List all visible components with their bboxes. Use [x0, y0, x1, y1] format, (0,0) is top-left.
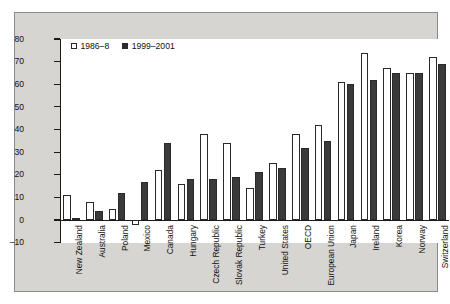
x-axis-label: Australia — [98, 225, 106, 258]
y-axis-tick-label: 70 — [14, 57, 24, 66]
y-axis-tick — [54, 174, 60, 175]
y-axis-tick — [54, 106, 60, 107]
y-axis-tick-label: –10 — [10, 238, 24, 247]
legend-entry: 1986–8 — [71, 41, 109, 51]
legend-entry: 1999–2001 — [122, 41, 175, 51]
x-axis-label: Slovak Republic — [235, 225, 243, 285]
chart-figure: –1001020304050607080 New ZealandAustrali… — [0, 0, 450, 304]
y-axis-tick-label: 30 — [14, 148, 24, 157]
y-axis-tick-label: 20 — [14, 170, 24, 179]
y-axis-tick — [54, 152, 60, 153]
x-axis-label: Mexico — [143, 225, 151, 252]
bar — [383, 68, 391, 220]
y-axis-tick — [54, 197, 60, 198]
x-axis-label: Turkey — [258, 225, 266, 250]
bar — [86, 202, 94, 220]
y-axis-tick-label: 50 — [14, 103, 24, 112]
x-axis-label: OECD — [304, 225, 312, 249]
bar — [155, 170, 163, 220]
x-axis-label: European Union — [327, 225, 335, 286]
x-axis-label: Czech Republic — [212, 225, 220, 284]
bar — [255, 172, 263, 220]
y-axis-tick-label: 80 — [14, 35, 24, 44]
bar — [370, 80, 378, 220]
y-axis-tick-label: 10 — [14, 193, 24, 202]
x-axis-label: Switzerland — [441, 225, 449, 268]
bar — [187, 179, 195, 220]
x-axis-label: Norway — [418, 225, 426, 253]
y-axis-tick-label: 60 — [14, 80, 24, 89]
bar — [118, 193, 126, 220]
x-axis-label: Canada — [166, 225, 174, 254]
y-axis-tick-label: 0 — [19, 216, 24, 225]
bar — [338, 82, 346, 220]
y-axis-tick — [54, 61, 60, 62]
x-axis-label: Korea — [395, 225, 403, 247]
y-axis-tick — [54, 219, 60, 220]
bar — [324, 141, 332, 220]
chart-plate: –1001020304050607080 New ZealandAustrali… — [14, 12, 438, 292]
bar — [361, 53, 369, 220]
bar — [392, 73, 400, 220]
x-axis-label: Japan — [349, 225, 357, 248]
x-axis-label: Poland — [121, 225, 129, 251]
bar — [347, 84, 355, 220]
y-axis-tick — [54, 242, 60, 243]
bar — [278, 168, 286, 220]
bar — [95, 211, 103, 220]
y-axis-tick — [54, 38, 60, 39]
bar — [246, 188, 254, 220]
bar — [72, 218, 80, 220]
bar — [132, 220, 140, 225]
bar — [232, 177, 240, 220]
legend-label: 1986–8 — [81, 41, 110, 51]
bar — [178, 184, 186, 220]
x-axis-label: Ireland — [372, 225, 380, 251]
zero-axis-line — [60, 220, 449, 221]
plot-panel-below-zero — [60, 221, 449, 243]
bar — [200, 134, 208, 220]
bar — [223, 143, 231, 220]
legend-swatch-icon — [122, 43, 128, 49]
bar — [164, 143, 172, 220]
y-axis-tick-label: 40 — [14, 125, 24, 134]
bar — [292, 134, 300, 220]
x-axis-label: Hungary — [189, 225, 197, 257]
legend-swatch-icon — [71, 43, 77, 49]
bar — [209, 179, 217, 220]
bar — [438, 64, 446, 220]
bar — [63, 195, 71, 220]
bar — [141, 182, 149, 220]
bar — [109, 209, 117, 220]
chart-legend: 1986–81999–2001 — [71, 41, 175, 51]
bar — [269, 163, 277, 220]
bar — [406, 73, 414, 220]
bar — [415, 73, 423, 220]
bar — [315, 125, 323, 220]
bar — [301, 148, 309, 220]
legend-label: 1999–2001 — [132, 41, 175, 51]
x-axis-label: United States — [281, 225, 289, 275]
bar — [429, 57, 437, 220]
x-axis-label: New Zealand — [75, 225, 83, 274]
y-axis-tick — [54, 84, 60, 85]
y-axis-tick — [54, 129, 60, 130]
